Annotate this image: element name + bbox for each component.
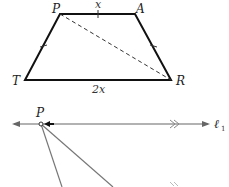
second-parallel-marker-icon [170, 182, 174, 186]
point-label-p: P [35, 106, 45, 120]
point-p [39, 122, 43, 126]
line-label-subscript: 1 [221, 125, 225, 133]
vertex-label-r: R [175, 74, 185, 88]
arrowhead-left-icon [12, 121, 20, 127]
trapezoid-figure: P A T R x 2x [12, 0, 185, 96]
parallel-lines-figure: P ℓ 1 [12, 106, 225, 187]
vertex-label-p: P [51, 2, 61, 16]
top-side-label: x [95, 0, 102, 11]
line-label-l: ℓ [214, 117, 219, 131]
geometry-figure: P A T R x 2x P ℓ 1 [0, 0, 229, 187]
vertex-label-a: A [135, 2, 145, 16]
vertex-label-t: T [12, 74, 21, 88]
bottom-side-label: 2x [91, 83, 106, 96]
diagonal-pr [60, 14, 171, 80]
trapezoid-outline [25, 14, 171, 80]
pointer-arrowhead-icon [44, 121, 50, 127]
arrowhead-right-icon [202, 121, 210, 127]
